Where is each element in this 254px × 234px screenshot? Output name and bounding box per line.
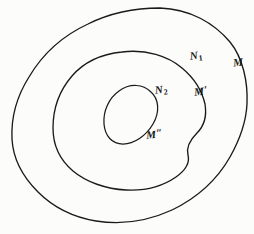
label-N1: N1 [189, 49, 203, 63]
label-M-text: M [232, 56, 243, 69]
label-N2-subscript: 2 [163, 87, 168, 96]
label-M: M [232, 57, 243, 69]
nested-curves-figure [0, 0, 254, 234]
label-N2: N2 [154, 83, 168, 97]
label-M-double-prime: M″ [146, 127, 163, 140]
label-N1-subscript: 1 [198, 53, 204, 62]
label-M-double-prime-mark: ″ [155, 126, 162, 139]
diagram-canvas: M N1 M′ N2 M″ [0, 0, 254, 234]
middle-curve-M-prime [53, 51, 206, 190]
label-M-prime: M′ [193, 84, 208, 97]
